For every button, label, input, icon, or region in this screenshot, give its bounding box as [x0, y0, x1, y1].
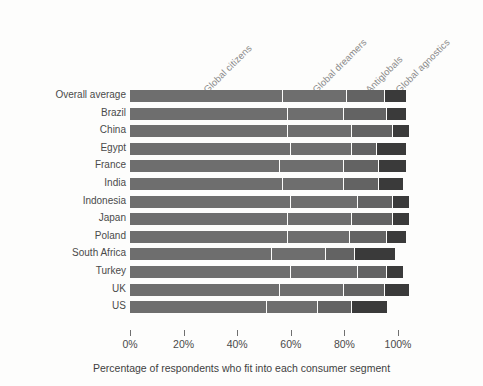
bar-segment: [350, 231, 388, 243]
bar-segment: [288, 231, 350, 243]
x-tick: [291, 330, 292, 336]
bar-row: [130, 301, 398, 313]
bar-segment: [326, 248, 355, 260]
bar-segment: [352, 143, 376, 155]
bar-segment: [283, 178, 345, 190]
bar-segment: [385, 284, 409, 296]
x-tick-label: 60%: [280, 338, 301, 350]
bar-row: [130, 160, 398, 172]
bar-segment: [352, 125, 392, 137]
category-label: Turkey: [8, 265, 126, 277]
bar-segment: [280, 284, 344, 296]
x-tick-label: 100%: [385, 338, 412, 350]
bar-segment: [387, 266, 403, 278]
x-tick: [398, 330, 399, 336]
bar-row: [130, 178, 398, 190]
x-tick: [237, 330, 238, 336]
bar-segment: [379, 178, 403, 190]
plot-area: [130, 90, 398, 330]
bar-segment: [385, 90, 406, 102]
bar-segment: [130, 143, 291, 155]
bar-segment: [377, 143, 406, 155]
x-axis-title: Percentage of respondents who fit into e…: [0, 362, 483, 374]
stacked-bar-chart: Global citizensGlobal dreamersAntiglobal…: [0, 0, 483, 386]
bar-segment: [393, 213, 409, 225]
bar-segment: [387, 108, 406, 120]
bar-segment: [291, 266, 358, 278]
bar-segment: [291, 143, 353, 155]
category-label: Egypt: [8, 142, 126, 154]
bar-segment: [130, 196, 291, 208]
x-tick-label: 80%: [334, 338, 355, 350]
bar-segment: [387, 231, 406, 243]
bar-segment: [130, 248, 272, 260]
bar-row: [130, 143, 398, 155]
bar-row: [130, 196, 398, 208]
bar-segment: [130, 213, 288, 225]
x-axis: 0%20%40%60%80%100%: [130, 330, 398, 360]
bar-row: [130, 266, 398, 278]
bar-row: [130, 213, 398, 225]
bar-segment: [130, 284, 280, 296]
bar-row: [130, 284, 398, 296]
x-tick: [130, 330, 131, 336]
bar-segment: [347, 90, 385, 102]
bar-segment: [272, 248, 326, 260]
bar-segment: [288, 213, 352, 225]
bar-segment: [280, 160, 344, 172]
bar-segment: [291, 196, 358, 208]
bar-segment: [130, 178, 283, 190]
category-label: Poland: [8, 230, 126, 242]
bar-row: [130, 108, 398, 120]
bar-segment: [344, 160, 379, 172]
bar-segment: [130, 301, 267, 313]
category-label: South Africa: [8, 247, 126, 259]
x-tick: [344, 330, 345, 336]
bar-segment: [130, 160, 280, 172]
bar-segment: [288, 108, 344, 120]
bar-segment: [355, 248, 395, 260]
bar-segment: [130, 125, 288, 137]
bar-row: [130, 248, 398, 260]
bar-segment: [267, 301, 318, 313]
category-label: India: [8, 177, 126, 189]
bar-segment: [283, 90, 347, 102]
bar-row: [130, 125, 398, 137]
category-label: UK: [8, 283, 126, 295]
bar-segment: [130, 231, 288, 243]
segment-label-global-dreamers: Global dreamers: [310, 36, 369, 95]
bar-segment: [352, 213, 392, 225]
bar-segment: [344, 178, 379, 190]
x-tick-label: 0%: [122, 338, 137, 350]
category-label: Brazil: [8, 107, 126, 119]
bar-segment: [393, 196, 409, 208]
x-tick-label: 20%: [173, 338, 194, 350]
category-axis: Overall averageBrazilChinaEgyptFranceInd…: [4, 90, 126, 330]
bar-segment: [358, 266, 387, 278]
bar-segment: [318, 301, 353, 313]
bar-row: [130, 231, 398, 243]
bar-segment: [130, 90, 283, 102]
bar-segment: [379, 160, 406, 172]
bar-segment: [130, 108, 288, 120]
segment-label-global-agnostics: Global agnostics: [393, 36, 452, 95]
bar-segment: [358, 196, 393, 208]
x-tick-label: 40%: [227, 338, 248, 350]
category-label: US: [8, 300, 126, 312]
bar-segment: [344, 108, 387, 120]
bar-segment: [344, 284, 384, 296]
bar-segment: [130, 266, 291, 278]
category-label: Overall average: [8, 89, 126, 101]
category-label: China: [8, 124, 126, 136]
category-label: Indonesia: [8, 195, 126, 207]
bar-segment: [393, 125, 409, 137]
category-label: France: [8, 159, 126, 171]
bar-segment: [288, 125, 352, 137]
bar-segment: [352, 301, 387, 313]
bar-row: [130, 90, 398, 102]
segment-label-global-citizens: Global citizens: [202, 42, 255, 95]
category-label: Japan: [8, 212, 126, 224]
x-tick: [184, 330, 185, 336]
